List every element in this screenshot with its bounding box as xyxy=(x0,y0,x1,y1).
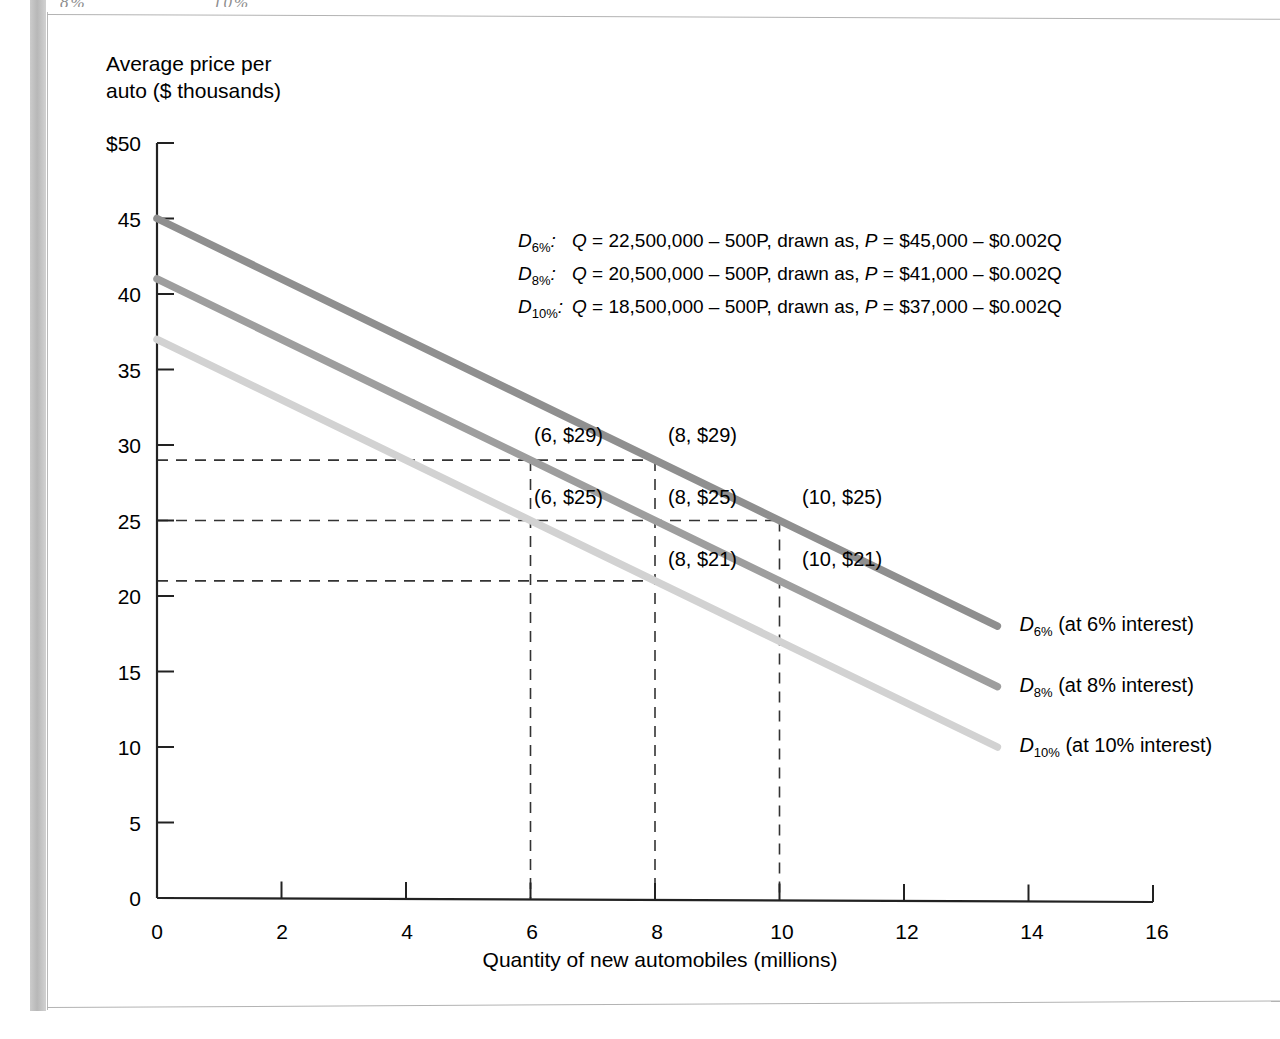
y-tick-label-35: 35 xyxy=(81,359,141,383)
equation-text-0: Q = 22,500,000 – 500P, drawn as, P = $45… xyxy=(572,230,1062,251)
point-label-6-25: (6, $25) xyxy=(534,486,603,509)
equation-curve-name-1: D8%: xyxy=(518,261,572,294)
y-tick-label-15: 15 xyxy=(81,661,141,685)
curve-label-D10%: D10% (at 10% interest) xyxy=(1019,734,1212,760)
equation-row-1: D8%:Q = 20,500,000 – 500P, drawn as, P =… xyxy=(518,261,1062,294)
x-tick-label-8: 8 xyxy=(637,920,677,944)
equation-text-1: Q = 20,500,000 – 500P, drawn as, P = $41… xyxy=(572,263,1062,284)
x-tick-label-2: 2 xyxy=(262,920,302,944)
equation-curve-name-0: D6%: xyxy=(518,228,572,261)
figure-page: 8% 10% Average price per auto ($ thousan… xyxy=(0,0,1280,1039)
y-tick-label-40: 40 xyxy=(81,283,141,307)
x-tick-label-6: 6 xyxy=(512,920,552,944)
equation-text-2: Q = 18,500,000 – 500P, drawn as, P = $37… xyxy=(572,296,1062,317)
equation-annotation-block: D6%:Q = 22,500,000 – 500P, drawn as, P =… xyxy=(518,228,1062,326)
x-tick-label-4: 4 xyxy=(387,920,427,944)
curve-label-D6%: D6% (at 6% interest) xyxy=(1019,613,1193,639)
x-tick-label-0: 0 xyxy=(137,920,177,944)
x-tick-label-10: 10 xyxy=(762,920,802,944)
curve-label-D8%: D8% (at 8% interest) xyxy=(1019,674,1193,700)
x-tick-label-12: 12 xyxy=(887,920,927,944)
y-tick-label-45: 45 xyxy=(81,208,141,232)
y-tick-label-10: 10 xyxy=(81,736,141,760)
y-tick-label-0: 0 xyxy=(81,887,141,911)
demand-curve-chart xyxy=(0,0,1280,1039)
y-tick-label-30: 30 xyxy=(81,434,141,458)
y-tick-label-50: $50 xyxy=(81,132,141,156)
equation-curve-name-2: D10%: xyxy=(518,294,572,327)
point-label-8-21: (8, $21) xyxy=(668,548,737,571)
point-label-10-25: (10, $25) xyxy=(802,486,882,509)
y-tick-label-25: 25 xyxy=(81,510,141,534)
point-label-8-29: (8, $29) xyxy=(668,424,737,447)
point-label-10-21: (10, $21) xyxy=(802,548,882,571)
x-tick-label-14: 14 xyxy=(1012,920,1052,944)
point-label-6-29: (6, $29) xyxy=(534,424,603,447)
x-axis-title-text: Quantity of new automobiles (millions) xyxy=(483,948,838,972)
y-tick-label-20: 20 xyxy=(81,585,141,609)
point-label-8-25: (8, $25) xyxy=(668,486,737,509)
y-tick-label-5: 5 xyxy=(81,812,141,836)
x-tick-label-16: 16 xyxy=(1137,920,1177,944)
demand-curve-D8% xyxy=(157,279,997,687)
demand-curve-D10% xyxy=(157,339,997,747)
equation-row-0: D6%:Q = 22,500,000 – 500P, drawn as, P =… xyxy=(518,228,1062,261)
x-axis-title: Quantity of new automobiles (millions) xyxy=(0,948,1280,972)
equation-row-2: D10%:Q = 18,500,000 – 500P, drawn as, P … xyxy=(518,294,1062,327)
